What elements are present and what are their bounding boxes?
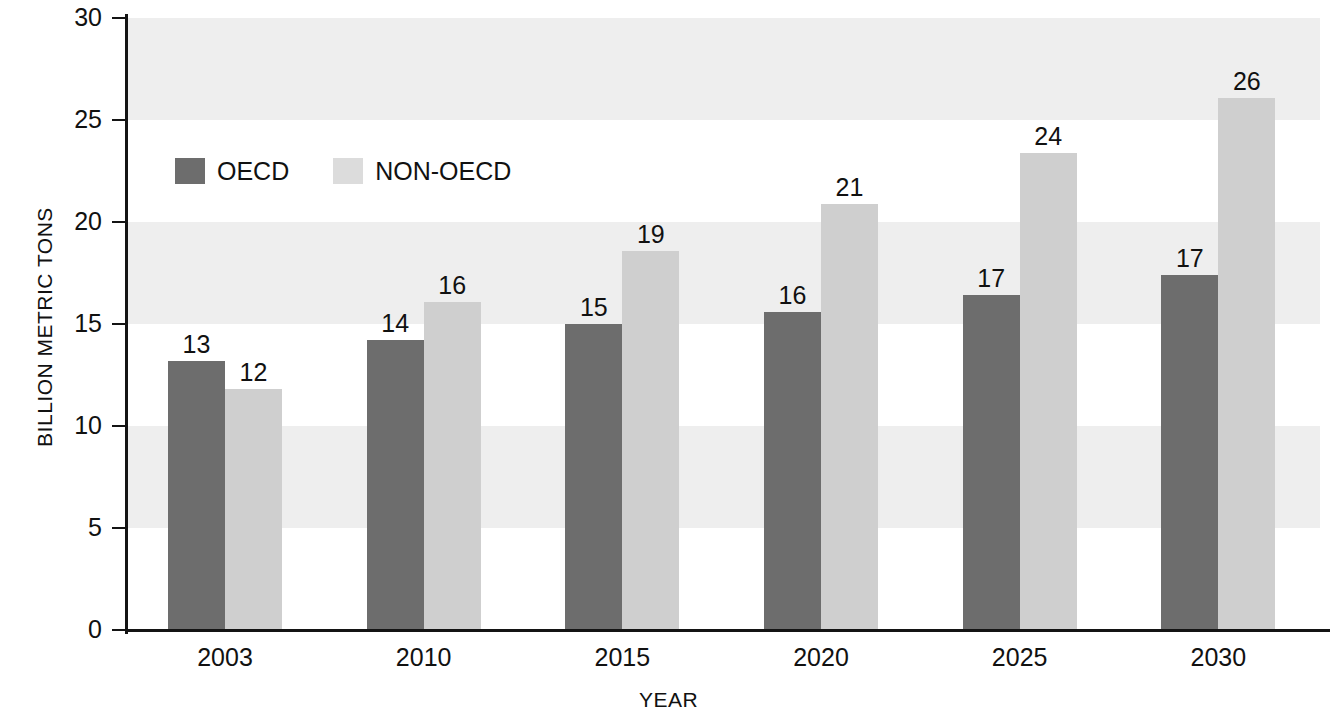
y-axis-line: [125, 14, 128, 634]
bar-value-label: 16: [438, 273, 466, 298]
x-tick-label: 2025: [950, 645, 1090, 670]
y-tick-label: 5: [42, 515, 102, 540]
bar-value-label: 21: [836, 175, 864, 200]
y-tick-mark: [112, 425, 125, 427]
bar-oecd-2020: 16: [764, 312, 821, 630]
y-tick-label: 15: [42, 311, 102, 336]
y-tick-label: 30: [42, 5, 102, 30]
bar-value-label: 17: [1176, 246, 1204, 271]
legend-label-non-oecd: NON-OECD: [375, 159, 511, 184]
legend-label-oecd: OECD: [217, 159, 289, 184]
plot-area: 131214161519162117241726: [128, 18, 1320, 630]
bar-value-label: 16: [779, 283, 807, 308]
bar-oecd-2003: 13: [168, 361, 225, 630]
legend-item-non-oecd: NON-OECD: [333, 158, 511, 184]
bar-non-oecd-2003: 12: [225, 389, 282, 630]
bar-value-label: 14: [381, 311, 409, 336]
background-band: [128, 222, 1320, 324]
background-band: [128, 18, 1320, 120]
y-tick-mark: [112, 323, 125, 325]
bar-oecd-2030: 17: [1161, 275, 1218, 630]
chart-legend: OECD NON-OECD: [175, 158, 511, 184]
x-tick-label: 2015: [552, 645, 692, 670]
bar-oecd-2025: 17: [963, 295, 1020, 630]
y-tick-mark: [112, 527, 125, 529]
y-tick-mark: [112, 119, 125, 121]
background-band: [128, 426, 1320, 528]
legend-item-oecd: OECD: [175, 158, 289, 184]
bar-oecd-2010: 14: [367, 340, 424, 630]
x-axis-line: [125, 629, 1330, 632]
bar-oecd-2015: 15: [565, 324, 622, 630]
bar-value-label: 12: [240, 360, 268, 385]
bar-value-label: 26: [1233, 69, 1261, 94]
bar-value-label: 13: [183, 332, 211, 357]
x-tick-label: 2003: [155, 645, 295, 670]
bar-chart: BILLION METRIC TONS 13121416151916211724…: [0, 0, 1337, 724]
x-tick-label: 2010: [354, 645, 494, 670]
bar-value-label: 17: [977, 266, 1005, 291]
dark-gray-swatch: [175, 158, 205, 184]
bar-non-oecd-2030: 26: [1218, 98, 1275, 630]
y-tick-label: 0: [42, 617, 102, 642]
y-tick-label: 10: [42, 413, 102, 438]
x-axis-title: YEAR: [0, 688, 1337, 712]
bar-non-oecd-2020: 21: [821, 204, 878, 630]
y-tick-label: 20: [42, 209, 102, 234]
x-tick-label: 2030: [1148, 645, 1288, 670]
x-tick-label: 2020: [751, 645, 891, 670]
bar-non-oecd-2015: 19: [622, 251, 679, 630]
y-tick-label: 25: [42, 107, 102, 132]
bar-value-label: 15: [580, 295, 608, 320]
bar-non-oecd-2010: 16: [424, 302, 481, 630]
bar-value-label: 24: [1034, 124, 1062, 149]
bar-non-oecd-2025: 24: [1020, 153, 1077, 630]
y-tick-mark: [112, 221, 125, 223]
bar-value-label: 19: [637, 222, 665, 247]
light-gray-swatch: [333, 158, 363, 184]
y-tick-mark: [112, 629, 125, 631]
y-tick-mark: [112, 17, 125, 19]
